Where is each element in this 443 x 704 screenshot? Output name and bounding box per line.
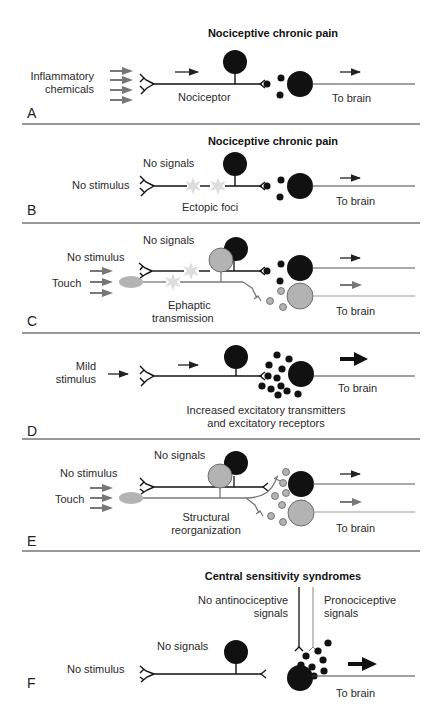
transmitter xyxy=(264,268,271,275)
cell-body-black xyxy=(223,50,247,74)
panel-letter: B xyxy=(27,202,36,218)
antinociceptive-label: signals xyxy=(254,607,289,619)
output-arrow-large xyxy=(348,657,377,671)
second-order-neuron xyxy=(287,255,313,281)
touch-axon-branch xyxy=(243,282,257,298)
foci-label: Ectopic foci xyxy=(182,201,238,213)
panel-letter: D xyxy=(27,423,37,439)
cell-body-black xyxy=(223,152,247,176)
synaptic-terminal xyxy=(260,372,265,380)
touch-axon-branch xyxy=(246,498,259,513)
output-label: To brain xyxy=(336,522,375,534)
nerve-ending-icon xyxy=(140,478,154,494)
second-order-neuron xyxy=(287,173,313,199)
panel-title: Nociceptive chronic pain xyxy=(208,135,338,147)
panel-d: Mild stimulus To brain Increased excitat… xyxy=(27,345,415,439)
output-arrow-gray xyxy=(340,498,362,506)
touch-label: Touch xyxy=(55,493,84,505)
panel-b: Nociceptive chronic pain No signals No s… xyxy=(27,135,415,218)
transmitter xyxy=(278,261,285,268)
stimulus-label: No stimulus xyxy=(72,179,130,191)
signals-label: No signals xyxy=(143,234,195,246)
output-label: To brain xyxy=(336,305,375,317)
nerve-ending-icon xyxy=(140,366,154,386)
touch-label: Touch xyxy=(52,277,81,289)
synaptic-terminal xyxy=(261,670,266,678)
transmitter-gray xyxy=(267,298,274,305)
second-order-neuron xyxy=(288,361,314,387)
synaptic-terminal xyxy=(295,647,303,651)
note-label: and excitatory receptors xyxy=(207,417,325,429)
signals-label: No signals xyxy=(157,640,209,652)
panel-c: No signals No stimulus Touch Ephaptic tr… xyxy=(27,234,415,329)
stimulus-label: Inflammatory xyxy=(30,70,94,82)
signals-label: No signals xyxy=(143,157,195,169)
output-label: To brain xyxy=(336,687,375,699)
note-label: Increased excitatory transmitters xyxy=(187,404,346,416)
transmitter xyxy=(278,177,285,184)
transmitter xyxy=(277,278,284,285)
touch-receptor xyxy=(119,276,143,288)
panel-a: Nociceptive chronic pain Inflammatory ch… xyxy=(27,27,415,121)
cell-body-gray xyxy=(209,248,233,272)
transmitter xyxy=(264,81,271,88)
output-label: To brain xyxy=(338,382,377,394)
second-order-neuron xyxy=(287,71,313,97)
stimulus-label: chemicals xyxy=(45,83,94,95)
output-arrow-large xyxy=(340,352,368,366)
stimulus-label: stimulus xyxy=(56,373,97,385)
ephaptic-label: transmission xyxy=(152,312,214,324)
transmitter-cluster-gray xyxy=(268,469,290,526)
stimulus-label: No stimulus xyxy=(67,663,125,675)
cell-body-black xyxy=(224,345,248,369)
ephaptic-label: Ephaptic xyxy=(168,299,211,311)
nerve-ending-icon xyxy=(140,666,154,682)
panel-letter: A xyxy=(27,105,37,121)
stimulus-arrows xyxy=(110,67,133,104)
pronociceptive-label: Pronociceptive xyxy=(324,594,396,606)
second-order-neuron-gray xyxy=(287,283,313,309)
nerve-ending-icon xyxy=(139,263,152,278)
reorg-label: Structural xyxy=(182,511,229,523)
pronociceptive-label: signals xyxy=(324,607,359,619)
panel-f: Central sensitivity syndromes No antinoc… xyxy=(27,570,415,699)
reorg-label: reorganization xyxy=(171,524,241,536)
synaptic-terminal xyxy=(263,483,268,491)
nerve-ending-icon xyxy=(140,176,154,196)
transmitter xyxy=(264,183,271,190)
signals-label: No signals xyxy=(154,449,206,461)
stimulus-label: Mild xyxy=(76,360,96,372)
output-arrow-gray xyxy=(340,281,362,289)
panel-title: Central sensitivity syndromes xyxy=(205,570,362,582)
synaptic-terminal xyxy=(256,511,263,516)
panel-letter: E xyxy=(27,533,36,549)
nerve-ending-icon xyxy=(140,74,154,94)
neuron-label: Nociceptor xyxy=(178,91,231,103)
cell-body-gray xyxy=(208,464,232,488)
panel-e: No signals No stimulus Touch Structural … xyxy=(27,449,415,549)
synaptic-terminal xyxy=(254,296,261,301)
output-label: To brain xyxy=(332,92,371,104)
second-order-neuron-gray xyxy=(288,500,314,526)
panel-letter: C xyxy=(27,313,37,329)
second-order-neuron xyxy=(288,471,314,497)
ephaptic-focus-icon xyxy=(183,262,199,280)
touch-receptor xyxy=(119,492,143,504)
touch-arrows xyxy=(90,484,113,512)
transmitter xyxy=(277,92,284,99)
transmitter xyxy=(277,194,284,201)
touch-arrows xyxy=(90,267,113,297)
transmitter xyxy=(278,75,285,82)
transmitter-gray xyxy=(278,288,285,295)
stimulus-label: No stimulus xyxy=(67,251,125,263)
transmitter-gray xyxy=(280,304,287,311)
pain-mechanisms-figure: Nociceptive chronic pain Inflammatory ch… xyxy=(0,0,443,704)
cell-body-black xyxy=(224,640,248,664)
ephaptic-focus-icon xyxy=(165,273,181,291)
output-label: To brain xyxy=(336,195,375,207)
antinociceptive-label: No antinociceptive xyxy=(198,594,288,606)
second-order-neuron xyxy=(287,665,313,691)
panel-title: Nociceptive chronic pain xyxy=(208,27,338,39)
stimulus-label: No stimulus xyxy=(60,467,118,479)
panel-letter: F xyxy=(27,675,36,691)
